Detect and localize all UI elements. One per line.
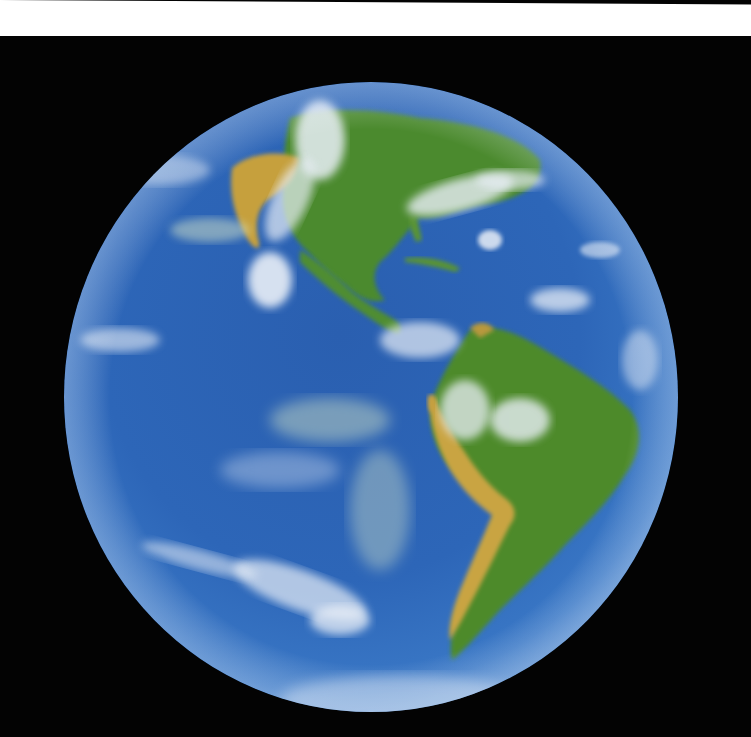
earth-globe xyxy=(0,0,751,737)
atmosphere-limb xyxy=(64,82,678,712)
